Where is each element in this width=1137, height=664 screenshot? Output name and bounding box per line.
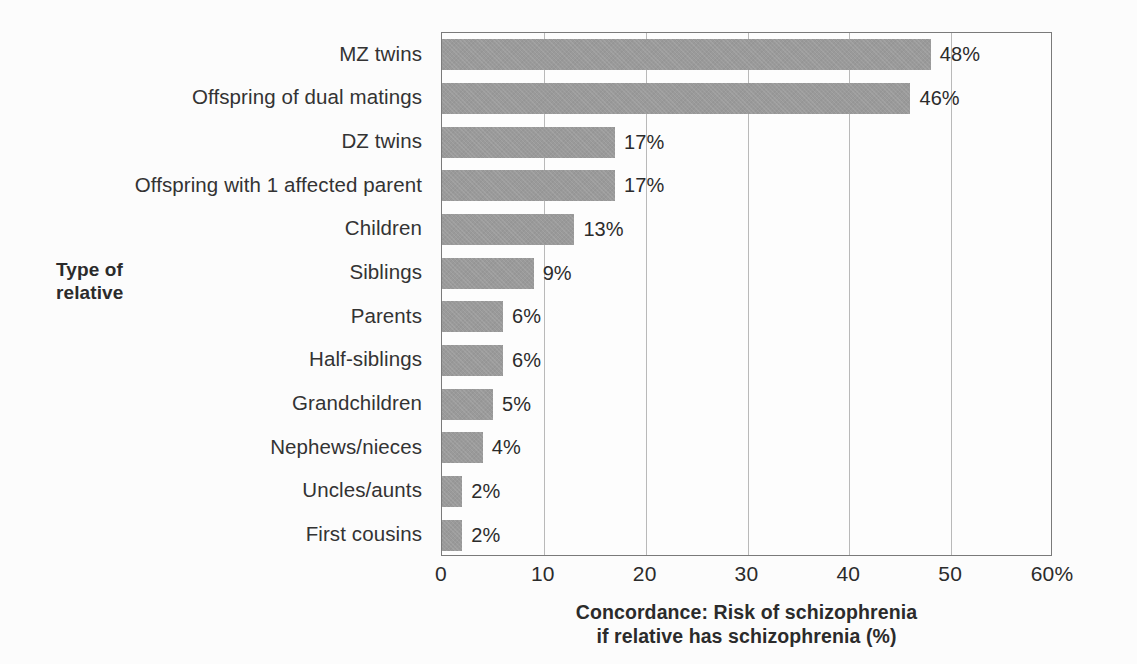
bar-row[interactable]: 9%	[442, 251, 1051, 295]
bar-value-label: 13%	[583, 218, 623, 241]
category-label: MZ twins	[0, 32, 432, 76]
bar-row[interactable]: 17%	[442, 164, 1051, 208]
bar-row[interactable]: 2%	[442, 470, 1051, 514]
x-tick-label: 50	[938, 562, 962, 586]
bar[interactable]	[442, 345, 503, 376]
category-label: Offspring of dual matings	[0, 76, 432, 120]
bar-value-label: 2%	[471, 480, 500, 503]
x-tick-label: 60%	[1031, 562, 1074, 586]
x-axis-title: Concordance: Risk of schizophrenia if re…	[441, 600, 1052, 648]
category-label: First cousins	[0, 512, 432, 556]
category-label: Offspring with 1 affected parent	[0, 163, 432, 207]
x-tick-label: 10	[531, 562, 555, 586]
bar-value-label: 4%	[492, 436, 521, 459]
x-axis-title-line-1: Concordance: Risk of schizophrenia	[441, 600, 1052, 624]
schizophrenia-risk-bar-chart: Type of relative MZ twinsOffspring of du…	[0, 0, 1137, 664]
bar[interactable]	[442, 170, 615, 201]
bar-value-label: 5%	[502, 393, 531, 416]
bars-layer: 48%46%17%17%13%9%6%6%5%4%2%2%	[442, 33, 1051, 555]
category-label: Children	[0, 207, 432, 251]
x-axis-title-line-2: if relative has schizophrenia (%)	[441, 624, 1052, 648]
bar[interactable]	[442, 520, 462, 551]
bar-value-label: 17%	[624, 131, 664, 154]
bar-value-label: 9%	[543, 262, 572, 285]
bar[interactable]	[442, 476, 462, 507]
category-label: Uncles/aunts	[0, 469, 432, 513]
category-axis-labels: MZ twinsOffspring of dual matingsDZ twin…	[0, 32, 432, 556]
x-tick-label: 30	[735, 562, 759, 586]
bar-value-label: 48%	[940, 43, 980, 66]
bar-value-label: 6%	[512, 349, 541, 372]
category-label: Parents	[0, 294, 432, 338]
x-tick-label: 0	[435, 562, 447, 586]
bar-row[interactable]: 6%	[442, 339, 1051, 383]
plot-area: 48%46%17%17%13%9%6%6%5%4%2%2%	[441, 32, 1052, 556]
bar-row[interactable]: 46%	[442, 77, 1051, 121]
bar-value-label: 17%	[624, 174, 664, 197]
bar[interactable]	[442, 258, 534, 289]
category-label: DZ twins	[0, 119, 432, 163]
bar-row[interactable]: 6%	[442, 295, 1051, 339]
bar[interactable]	[442, 214, 574, 245]
category-label: Half-siblings	[0, 338, 432, 382]
bar-value-label: 2%	[471, 524, 500, 547]
bar[interactable]	[442, 432, 483, 463]
x-tick-label: 40	[836, 562, 860, 586]
bar-value-label: 46%	[919, 87, 959, 110]
x-axis-ticks: 0102030405060%	[441, 556, 1052, 596]
category-label: Grandchildren	[0, 381, 432, 425]
bar[interactable]	[442, 301, 503, 332]
bar-row[interactable]: 2%	[442, 513, 1051, 557]
bar-row[interactable]: 5%	[442, 382, 1051, 426]
category-label: Siblings	[0, 250, 432, 294]
bar-row[interactable]: 13%	[442, 208, 1051, 252]
bar-row[interactable]: 4%	[442, 426, 1051, 470]
bar[interactable]	[442, 127, 615, 158]
bar-row[interactable]: 48%	[442, 33, 1051, 77]
bar-value-label: 6%	[512, 305, 541, 328]
category-label: Nephews/nieces	[0, 425, 432, 469]
bar[interactable]	[442, 83, 910, 114]
bar[interactable]	[442, 39, 931, 70]
bar[interactable]	[442, 389, 493, 420]
x-tick-label: 20	[633, 562, 657, 586]
bar-row[interactable]: 17%	[442, 120, 1051, 164]
